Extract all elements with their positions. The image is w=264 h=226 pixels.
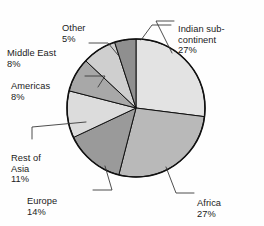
slice-label-rest-of-asia-name: Rest of Asia — [11, 153, 41, 173]
slice-label-europe-pct: 14% — [27, 207, 89, 217]
slice-label-americas-pct: 8% — [11, 92, 81, 102]
slice-label-indian-subcontinent-name: Indian sub- continent — [178, 24, 225, 44]
slice-label-africa-pct: 27% — [197, 209, 261, 219]
leader-line-other — [141, 25, 171, 40]
slice-label-rest-of-asia-pct: 11% — [11, 174, 69, 184]
pie-chart: Indian sub- continent 27% Africa 27% Eur… — [0, 0, 264, 226]
slice-label-americas-name: Americas — [11, 81, 50, 91]
slice-label-indian-subcontinent-pct: 27% — [178, 45, 262, 55]
slice-label-rest-of-asia: Rest of Asia 11% — [11, 143, 69, 195]
slice-label-africa-name: Africa — [197, 198, 221, 208]
slice-label-middle-east-name: Middle East — [7, 48, 56, 58]
slice-label-africa: Africa 27% — [197, 188, 261, 226]
slice-label-other: Other 5% — [62, 13, 110, 55]
leader-line-africa — [166, 167, 194, 193]
slice-label-europe-name: Europe — [27, 196, 57, 206]
slice-label-indian-subcontinent: Indian sub- continent 27% — [178, 14, 262, 66]
slice-label-other-name: Other — [62, 23, 86, 33]
slice-label-middle-east-pct: 8% — [7, 59, 85, 69]
slice-label-other-pct: 5% — [62, 34, 110, 44]
